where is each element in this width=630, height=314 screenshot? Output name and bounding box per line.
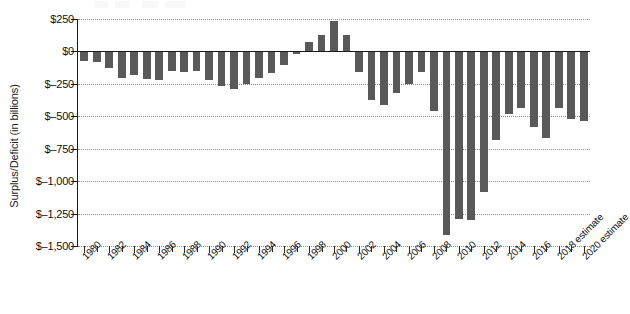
- y-axis-tick-mark: [71, 181, 78, 182]
- bar: [418, 51, 426, 72]
- plot-area: [78, 19, 590, 246]
- bar: [155, 51, 163, 80]
- y-axis-tick-label: $–1,000: [36, 175, 74, 187]
- y-axis-tick-mark: [71, 149, 78, 150]
- bar: [230, 51, 238, 89]
- bar: [93, 51, 101, 61]
- bar: [193, 51, 201, 71]
- gridline: [78, 181, 590, 182]
- bar: [455, 51, 463, 219]
- bar: [505, 51, 513, 114]
- x-axis-tick-mark: [446, 246, 447, 252]
- bar: [255, 51, 263, 77]
- bar: [330, 21, 338, 52]
- x-axis-tick-mark: [97, 246, 98, 252]
- y-axis-tick-mark: [71, 84, 78, 85]
- bar: [355, 51, 363, 71]
- x-axis-tick-mark: [421, 246, 422, 252]
- x-axis-tick-mark: [322, 246, 323, 252]
- bar: [105, 51, 113, 68]
- x-axis-tick-mark: [496, 246, 497, 252]
- y-axis-tick-label: $–1,500: [36, 240, 74, 252]
- bar: [567, 51, 575, 118]
- bar: [555, 51, 563, 108]
- y-axis-tick-label: $–250: [44, 78, 74, 90]
- bar: [480, 51, 488, 192]
- x-axis-tick-mark: [521, 246, 522, 252]
- y-axis-tick-mark: [71, 246, 78, 247]
- bar: [180, 51, 188, 71]
- bar: [542, 51, 550, 137]
- x-axis-tick-mark: [571, 246, 572, 252]
- y-axis-tick-label: $–1,250: [36, 208, 74, 220]
- y-axis-tick-mark: [71, 19, 78, 20]
- zero-baseline: [78, 51, 590, 52]
- bar: [380, 51, 388, 105]
- bar: [517, 51, 525, 108]
- bar: [443, 51, 451, 234]
- y-axis-tick-mark: [71, 116, 78, 117]
- bar: [305, 42, 313, 51]
- bar: [143, 51, 151, 78]
- bar: [205, 51, 213, 80]
- x-axis-tick-mark: [371, 246, 372, 252]
- x-axis-tick-mark: [172, 246, 173, 252]
- gridline: [78, 84, 590, 85]
- gridline: [78, 214, 590, 215]
- bar: [118, 51, 126, 78]
- x-axis-tick-mark: [396, 246, 397, 252]
- bar: [580, 51, 588, 121]
- bar: [168, 51, 176, 70]
- bar: [218, 51, 226, 86]
- x-axis-tick-mark: [147, 246, 148, 252]
- bar: [80, 51, 88, 61]
- y-axis-tick-labels: $250$0$–250$–500$–750$–1,000$–1,250$–1,5…: [18, 0, 74, 314]
- y-axis-tick-mark: [71, 51, 78, 52]
- x-axis-tick-mark: [197, 246, 198, 252]
- bar: [268, 51, 276, 72]
- x-axis-tick-mark: [546, 246, 547, 252]
- bar: [343, 35, 351, 52]
- bar: [405, 51, 413, 83]
- bar: [280, 51, 288, 65]
- x-axis-tick-mark: [297, 246, 298, 252]
- x-axis-tick-mark: [122, 246, 123, 252]
- faint-header-artifact: [95, 1, 185, 8]
- bar: [492, 51, 500, 139]
- bar: [318, 35, 326, 51]
- gridline: [78, 149, 590, 150]
- bar: [467, 51, 475, 220]
- gridline: [78, 116, 590, 117]
- bar: [530, 51, 538, 127]
- x-axis-tick-mark: [471, 246, 472, 252]
- y-axis-tick-label: $–750: [44, 143, 74, 155]
- x-axis-tick-mark: [346, 246, 347, 252]
- bar: [368, 51, 376, 100]
- bar: [393, 51, 401, 92]
- bar: [430, 51, 438, 111]
- bar: [243, 51, 251, 84]
- x-axis-tick-mark: [247, 246, 248, 252]
- y-axis-tick-label: $–500: [44, 110, 74, 122]
- x-axis-tick-mark: [272, 246, 273, 252]
- y-axis-tick-mark: [71, 214, 78, 215]
- x-axis-tick-mark: [222, 246, 223, 252]
- bar: [130, 51, 138, 75]
